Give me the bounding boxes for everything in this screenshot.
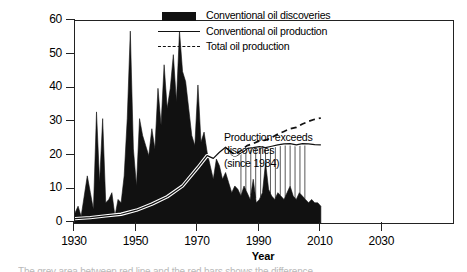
y-tick-label-50: 50 bbox=[20, 46, 62, 60]
solid-line-swatch-icon bbox=[156, 24, 200, 40]
x-tick-label-2010: 2010 bbox=[290, 234, 350, 248]
y-tick-label-20: 20 bbox=[20, 147, 62, 161]
y-tick-label-60: 60 bbox=[20, 12, 62, 26]
legend-item-conventional-production: Conventional oil production bbox=[156, 24, 330, 40]
dashed-line-swatch-icon bbox=[156, 39, 200, 55]
legend-label-total-production: Total oil production bbox=[206, 39, 289, 55]
x-tick-1970 bbox=[196, 222, 197, 231]
x-tick-1990 bbox=[258, 222, 259, 231]
y-tick-label-0: 0 bbox=[20, 214, 62, 228]
x-tick-2030 bbox=[381, 222, 382, 231]
x-tick-label-1990: 1990 bbox=[228, 234, 288, 248]
y-tick-label-10: 10 bbox=[20, 180, 62, 194]
annotation-line3: (since 1984) bbox=[224, 157, 313, 170]
chart-figure: Oil production and discoveries (billion … bbox=[0, 0, 467, 272]
x-axis-title: Year bbox=[74, 250, 452, 262]
annotation-line1: Production exceeds bbox=[224, 131, 313, 144]
y-tick-label-40: 40 bbox=[20, 79, 62, 93]
legend-label-conventional-production: Conventional oil production bbox=[206, 24, 327, 40]
x-tick-label-1930: 1930 bbox=[44, 234, 104, 248]
x-tick-1930 bbox=[73, 222, 74, 231]
chart-annotation: Production exceeds discoveries (since 19… bbox=[224, 131, 313, 169]
x-tick-label-2030: 2030 bbox=[351, 234, 411, 248]
x-tick-label-1950: 1950 bbox=[105, 234, 165, 248]
figure-caption: The grey area between red line and the r… bbox=[18, 266, 458, 272]
legend-item-total-production: Total oil production bbox=[156, 39, 330, 55]
x-tick-2010 bbox=[319, 222, 320, 231]
x-tick-1950 bbox=[135, 222, 136, 231]
legend-label-discoveries: Conventional oil discoveries bbox=[206, 8, 330, 24]
legend-item-discoveries: Conventional oil discoveries bbox=[156, 8, 330, 24]
x-tick-label-1970: 1970 bbox=[167, 234, 227, 248]
y-tick-label-30: 30 bbox=[20, 113, 62, 127]
filled-area-swatch-icon bbox=[156, 8, 200, 24]
chart-legend: Conventional oil discoveries Conventiona… bbox=[156, 8, 330, 55]
annotation-line2: discoveries bbox=[224, 144, 313, 157]
discoveries-area bbox=[75, 31, 321, 223]
